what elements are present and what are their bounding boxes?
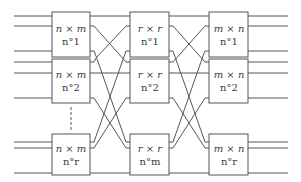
interconnect-middle-right [169, 16, 209, 173]
dimension-label: r × r [130, 22, 170, 35]
index-label: n°m [130, 155, 170, 168]
middle-switch-1-label: r × r n°1 [130, 22, 170, 48]
dimension-label: m × n [209, 68, 249, 81]
dimension-label: m × n [209, 22, 249, 35]
dimension-label: n × m [51, 68, 91, 81]
dimension-label: r × r [130, 142, 170, 155]
input-switch-2-label: n × m n°2 [51, 68, 91, 94]
index-label: n°2 [130, 81, 170, 94]
middle-switch-2-label: r × r n°2 [130, 68, 170, 94]
input-switch-1-label: n × m n°1 [51, 22, 91, 48]
input-lines [14, 16, 52, 173]
input-switch-r-label: n × m n°r [51, 142, 91, 168]
middle-switch-m-label: r × r n°m [130, 142, 170, 168]
output-switch-2-label: m × n n°2 [209, 68, 249, 94]
dimension-label: m × n [209, 142, 249, 155]
index-label: n°1 [209, 35, 249, 48]
index-label: n°1 [130, 35, 170, 48]
output-switch-1-label: m × n n°1 [209, 22, 249, 48]
index-label: n°2 [209, 81, 249, 94]
index-label: n°r [209, 155, 249, 168]
index-label: n°2 [51, 81, 91, 94]
dimension-label: n × m [51, 142, 91, 155]
dimension-label: n × m [51, 22, 91, 35]
dimension-label: r × r [130, 68, 170, 81]
index-label: n°r [51, 155, 91, 168]
output-switch-r-label: m × n n°r [209, 142, 249, 168]
output-lines [248, 16, 288, 173]
index-label: n°1 [51, 35, 91, 48]
interconnect-left-middle [90, 16, 130, 173]
